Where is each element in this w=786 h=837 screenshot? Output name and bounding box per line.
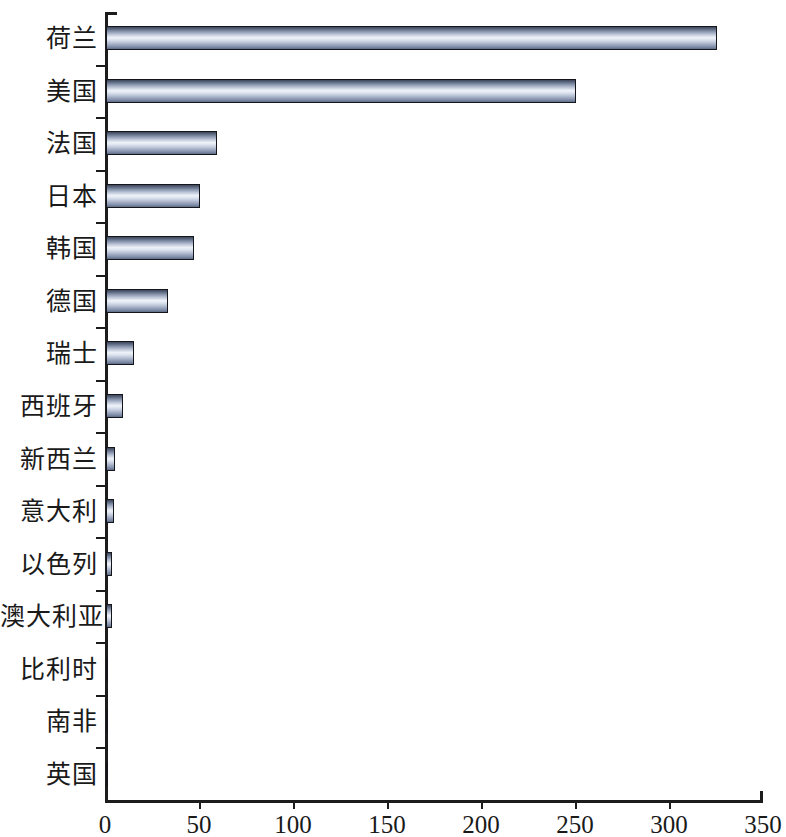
bar <box>106 709 108 733</box>
bar <box>106 499 114 523</box>
y-axis-tick <box>96 432 105 434</box>
y-axis-top-cap <box>105 12 117 15</box>
y-axis-tick <box>96 65 105 67</box>
category-label: 以色列 <box>0 551 98 576</box>
bar <box>106 26 717 50</box>
x-axis-tick-label: 200 <box>462 812 500 837</box>
category-label: 南非 <box>0 709 98 734</box>
y-axis-tick <box>96 380 105 382</box>
bar <box>106 604 112 628</box>
bar <box>106 552 112 576</box>
x-axis-tick <box>387 800 389 809</box>
y-axis-tick <box>96 590 105 592</box>
y-axis-tick <box>96 170 105 172</box>
category-label: 德国 <box>0 288 98 313</box>
y-axis-tick <box>96 642 105 644</box>
y-axis-tick <box>96 747 105 749</box>
category-label: 西班牙 <box>0 394 98 419</box>
bar <box>106 762 108 786</box>
x-axis-tick <box>669 800 671 809</box>
category-label: 英国 <box>0 761 98 786</box>
y-axis-tick <box>96 327 105 329</box>
category-label: 法国 <box>0 131 98 156</box>
x-axis-line <box>105 800 763 803</box>
x-axis-tick-label: 50 <box>187 812 212 837</box>
plot-area: 050100150200250300350 <box>105 12 763 800</box>
bar <box>106 657 108 681</box>
category-label: 美国 <box>0 78 98 103</box>
x-axis-tick-label: 150 <box>368 812 406 837</box>
x-axis-tick-label: 350 <box>744 812 782 837</box>
bar <box>106 447 115 471</box>
category-label: 比利时 <box>0 656 98 681</box>
x-axis-tick <box>293 800 295 809</box>
bar <box>106 131 217 155</box>
y-axis-tick <box>96 695 105 697</box>
bar <box>106 236 194 260</box>
x-axis-tick-label: 100 <box>274 812 312 837</box>
bar <box>106 394 123 418</box>
y-axis-tick <box>96 117 105 119</box>
x-axis-tick-label: 300 <box>650 812 688 837</box>
bar <box>106 184 200 208</box>
bar <box>106 341 134 365</box>
bar <box>106 79 576 103</box>
x-axis-tick-label: 0 <box>99 812 112 837</box>
y-axis-tick <box>96 222 105 224</box>
category-axis-labels: 荷兰美国法国日本韩国德国瑞士西班牙新西兰意大利以色列澳大利亚比利时南非英国 <box>0 12 98 800</box>
category-label: 韩国 <box>0 236 98 261</box>
x-axis-tick <box>481 800 483 809</box>
x-axis-tick <box>575 800 577 809</box>
x-axis-end-cap <box>760 791 763 803</box>
y-axis-tick <box>96 275 105 277</box>
category-label: 日本 <box>0 183 98 208</box>
category-label: 澳大利亚 <box>0 604 98 629</box>
category-label: 新西兰 <box>0 446 98 471</box>
y-axis-tick <box>96 485 105 487</box>
y-axis-tick <box>96 537 105 539</box>
bar <box>106 289 168 313</box>
x-axis-tick <box>199 800 201 809</box>
category-label: 荷兰 <box>0 26 98 51</box>
x-axis-tick-label: 250 <box>556 812 594 837</box>
category-label: 意大利 <box>0 499 98 524</box>
category-label: 瑞士 <box>0 341 98 366</box>
